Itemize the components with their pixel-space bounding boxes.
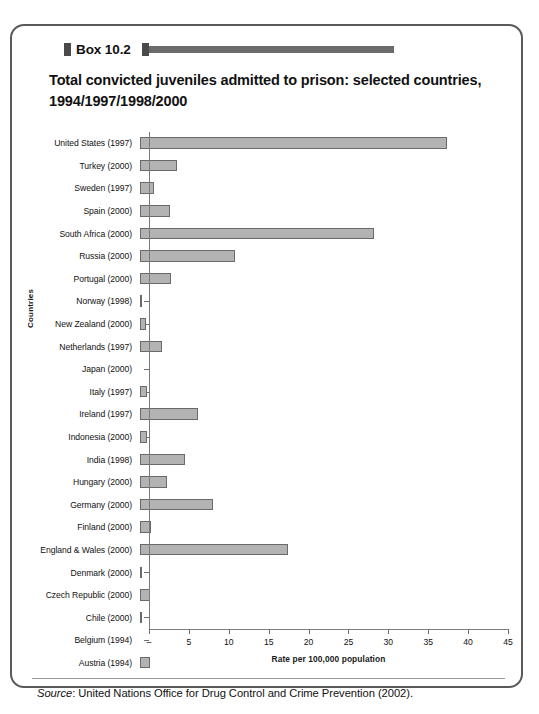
bar-rows: United States (1997)Turkey (2000)Sweden … [12,132,525,674]
x-tick-label: 40 [463,637,473,647]
source-text: : United Nations Office for Drug Control… [72,687,413,699]
x-tick-label: 35 [423,637,433,647]
bar-category-label: Netherlands (1997) [12,342,140,352]
box-panel: Box 10.2 Total convicted juveniles admit… [10,24,523,688]
header-rule [149,46,394,53]
bar-row: Czech Republic (2000) [12,584,525,607]
x-tick-mark [149,629,150,634]
source-note: Source: United Nations Office for Drug C… [37,687,413,699]
bar-category-label: Austria (1994) [12,658,140,668]
bar-row: Denmark (2000) [12,561,525,584]
bar-category-label: Ireland (1997) [12,409,140,419]
bar-cell [140,290,525,313]
x-tick-mark [309,629,310,634]
bar-row: Portugal (2000) [12,268,525,291]
bar [140,228,374,240]
bar [140,567,142,579]
bar [140,476,167,488]
bar-category-label: Italy (1997) [12,387,140,397]
x-tick-mark [508,629,509,634]
x-tick-label: 45 [503,637,513,647]
bar-cell [140,200,525,223]
bar-category-label: India (1998) [12,455,140,465]
bar-category-label: United States (1997) [12,138,140,148]
bar-category-label: Japan (2000) [12,364,140,374]
chart-title: Total convicted juveniles admitted to pr… [49,70,489,111]
bar-cell [140,584,525,607]
box-header: Box 10.2 [60,41,398,58]
bar [140,205,170,217]
bar-cell [140,245,525,268]
bar [140,273,171,285]
bar-cell [140,426,525,449]
bar-row: Ireland (1997) [12,403,525,426]
bar-category-label: Spain (2000) [12,206,140,216]
x-tick-label: – [147,637,152,647]
bar-cell [140,403,525,426]
bar [140,386,147,398]
bar-category-label: Sweden (1997) [12,183,140,193]
bar-row: Chile (2000) [12,606,525,629]
bar-row: Netherlands (1997) [12,335,525,358]
bar-cell [140,358,525,381]
bar-cell [140,155,525,178]
x-tick-mark [388,629,389,634]
x-tick-label: 25 [344,637,354,647]
bar-row: Turkey (2000) [12,155,525,178]
bar-row: Russia (2000) [12,245,525,268]
bar-row: Finland (2000) [12,516,525,539]
bar-row: United States (1997) [12,132,525,155]
bar-cell [140,381,525,404]
bar-category-label: Hungary (2000) [12,477,140,487]
x-tick-mark [348,629,349,634]
bar [140,295,142,307]
bar-cell [140,539,525,562]
bar-cell [140,222,525,245]
bar [140,544,288,556]
bar-row: Germany (2000) [12,494,525,517]
bar-row: Sweden (1997) [12,177,525,200]
x-tick-label: 10 [224,637,234,647]
bar-row: Indonesia (2000) [12,426,525,449]
bar-row: Spain (2000) [12,200,525,223]
x-tick-mark [468,629,469,634]
bar-cell [140,313,525,336]
bar-category-label: Finland (2000) [12,522,140,532]
bar-row: South Africa (2000) [12,222,525,245]
bar [140,182,154,194]
footer-divider [32,678,505,679]
x-tick-label: 5 [186,637,191,647]
bar-row: Norway (1998) [12,290,525,313]
bar-category-label: Norway (1998) [12,296,140,306]
bar-cell [140,516,525,539]
bar-category-label: Chile (2000) [12,613,140,623]
x-tick-mark [269,629,270,634]
header-tick-right-icon [142,43,149,56]
bar [140,137,447,149]
bar-cell [140,448,525,471]
x-tick-label: 30 [384,637,394,647]
bar-row: India (1998) [12,448,525,471]
bar [140,454,185,466]
bar-category-label: South Africa (2000) [12,229,140,239]
bar [140,341,162,353]
bar-category-label: Germany (2000) [12,500,140,510]
bar-category-label: Portugal (2000) [12,274,140,284]
bar-cell [140,132,525,155]
x-tick-label: 20 [304,637,314,647]
box-header-label: Box 10.2 [71,42,135,57]
bar [140,318,146,330]
bar-cell [140,494,525,517]
bar [140,612,142,624]
bar [140,250,235,262]
bar-cell [140,335,525,358]
bar-row: Hungary (2000) [12,471,525,494]
bar [140,431,147,443]
bar-category-label: Turkey (2000) [12,161,140,171]
bar [140,499,213,511]
bar-row: Japan (2000) [12,358,525,381]
bar-row: New Zealand (2000) [12,313,525,336]
bar-row: Italy (1997) [12,381,525,404]
bar-cell [140,268,525,291]
bar-category-label: England & Wales (2000) [12,545,140,555]
